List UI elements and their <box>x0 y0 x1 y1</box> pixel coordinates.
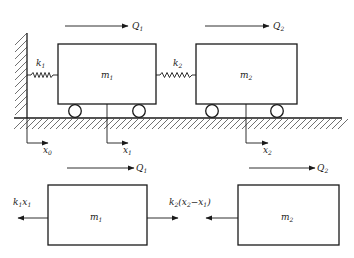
coord-x2-label: x2 <box>263 145 272 156</box>
wheel-icon <box>133 105 146 118</box>
mass-m1-label: m1 <box>101 70 113 81</box>
spring-k2: k2 <box>156 58 196 78</box>
fbd-force-q2: Q2 <box>249 163 328 174</box>
force-q2: Q2 <box>205 21 284 32</box>
fbd-mass-m2-label: m2 <box>281 212 294 223</box>
spring-k1-label: k1 <box>36 58 45 69</box>
spring-k2-label: k2 <box>173 58 182 69</box>
coord-x2: x2 <box>246 104 272 156</box>
wheel-icon <box>69 105 82 118</box>
force-q1: Q1 <box>65 21 143 32</box>
fbd-spring-force-k1x1-label: k1x1 <box>13 197 31 208</box>
wall <box>15 33 27 118</box>
wheel-icon <box>271 105 284 118</box>
coord-x1-label: x1 <box>123 145 132 156</box>
mass-m2-label: m2 <box>240 70 253 81</box>
force-q1-label: Q1 <box>132 21 143 32</box>
fbd-mass-m1-label: m1 <box>90 212 102 223</box>
coord-x1: x1 <box>107 104 132 156</box>
fbd-spring-force-k2-label: k2(x2−x1) <box>169 197 211 208</box>
fbd-mass-m1: m1 <box>48 185 147 245</box>
diagram-canvas: k1 m1 k2 m2 Q1 Q2 x0 x1 x2 <box>0 0 354 258</box>
fbd-mass-m2: m2 <box>238 185 339 245</box>
fbd-force-q2-label: Q2 <box>317 163 328 174</box>
mass-m2: m2 <box>196 44 297 117</box>
wheel-icon <box>206 105 219 118</box>
fbd-spring-force-k2: k2(x2−x1) <box>147 197 238 218</box>
coord-x0: x0 <box>27 118 52 156</box>
spring-k1: k1 <box>27 58 58 78</box>
fbd-spring-force-k1x1: k1x1 <box>13 197 48 218</box>
coord-x0-label: x0 <box>43 145 52 156</box>
ground <box>14 118 348 129</box>
fbd-force-q1-label: Q1 <box>136 163 147 174</box>
fbd-force-q1: Q1 <box>67 163 147 174</box>
force-q2-label: Q2 <box>273 21 284 32</box>
